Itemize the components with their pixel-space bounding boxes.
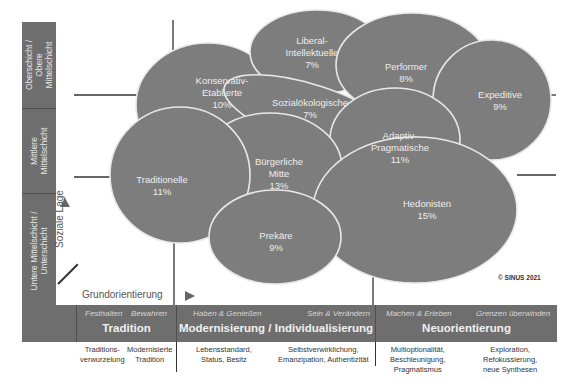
desc-lebensstandard: Lebensstandard, Status, Besitz bbox=[196, 345, 252, 365]
label-hedonisten: Hedonisten 15% bbox=[403, 198, 451, 222]
section-neuorientierung: Machen & Erleben Grenzen überwinden Neuo… bbox=[375, 305, 557, 342]
arrow-right-icon bbox=[185, 291, 195, 301]
copyright: © SINUS 2021 bbox=[498, 274, 541, 281]
desc-exploration: Exploration, Refokussierung, neue Synthe… bbox=[483, 345, 537, 375]
label-buergerliche-mitte: Bürgerliche Mitte 13% bbox=[255, 156, 303, 192]
divider-line bbox=[375, 342, 376, 366]
label-prekaere: Prekäre 9% bbox=[259, 230, 292, 254]
label-performer: Performer 8% bbox=[385, 61, 427, 85]
label-traditionelle: Traditionelle 11% bbox=[136, 174, 187, 198]
section-modernisierung: Haben & Genießen Sein & Verändern Modern… bbox=[176, 305, 375, 342]
social-status-axis-label: Soziale Lage bbox=[54, 190, 65, 248]
label-expeditive: Expeditive 9% bbox=[478, 89, 522, 113]
label-adaptiv-pragmatische: Adaptiv- Pragmatische 11% bbox=[371, 130, 429, 166]
desc-selbstverwirklichung: Selbstverwirklichung, Emanzipation, Auth… bbox=[278, 345, 368, 365]
section-tradition: Festhalten Bewahren Tradition bbox=[76, 305, 176, 342]
desc-multioptionalitaet: Multioptionalität, Beschleunigung, Pragm… bbox=[390, 345, 445, 375]
desc-traditionsverwurzelung: Traditions- verwurzelung bbox=[80, 345, 125, 365]
label-sozialoekologische: Sozialökologische 7% bbox=[272, 97, 348, 121]
basic-orientation-axis-panel: Festhalten Bewahren Tradition Haben & Ge… bbox=[22, 305, 557, 342]
basic-orientation-axis-label: Grundorientierung bbox=[82, 289, 163, 300]
label-konservativ-etablierte: Konservativ- Etablierte 10% bbox=[196, 75, 249, 111]
desc-modernisierte-tradition: Modernisierte Tradition bbox=[127, 345, 172, 365]
divider-line bbox=[176, 342, 177, 372]
label-liberal-intellektuelle: Liberal- Intellektuelle 7% bbox=[286, 35, 339, 71]
